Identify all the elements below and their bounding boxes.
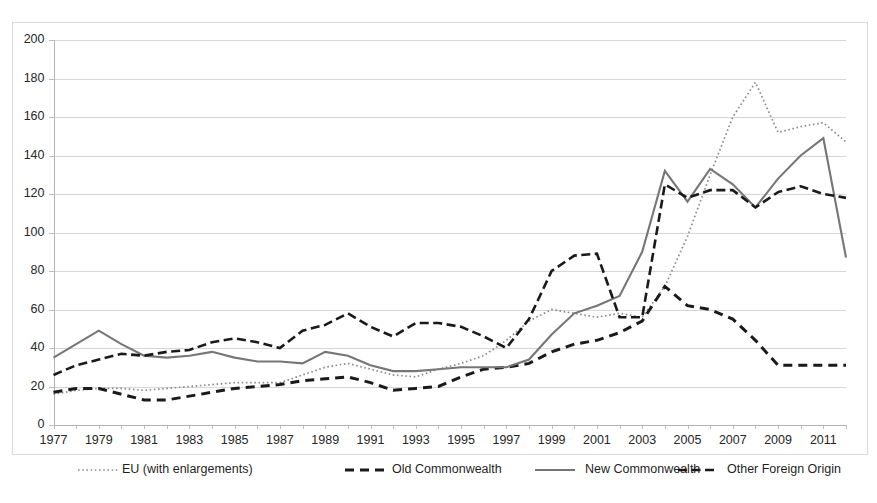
x-tick-label: 1977 xyxy=(40,433,68,447)
y-tick-label: 100 xyxy=(24,225,45,239)
series-line-eu-with-enlargements xyxy=(54,82,847,394)
plot-area: 020406080100120140160180200 197719791981… xyxy=(0,0,877,503)
series-line-new-commonwealth xyxy=(54,138,847,371)
y-axis-labels: 020406080100120140160180200 xyxy=(24,32,45,431)
x-tick-label: 1981 xyxy=(130,433,158,447)
x-axis-labels: 1977197919811983198519871989199119931995… xyxy=(40,433,837,447)
chart-page: 020406080100120140160180200 197719791981… xyxy=(0,0,877,503)
y-tick-label: 0 xyxy=(38,417,45,431)
y-tick-label: 160 xyxy=(24,109,45,123)
x-tick-label: 2005 xyxy=(674,433,702,447)
legend-label[interactable]: Old Commonwealth xyxy=(392,462,502,476)
x-tick-label: 1987 xyxy=(266,433,294,447)
series-line-old-commonwealth xyxy=(54,286,847,400)
x-tick-label: 1983 xyxy=(175,433,203,447)
x-tick-label: 2007 xyxy=(719,433,747,447)
x-tick-label: 1993 xyxy=(402,433,430,447)
chart-legend: EU (with enlargements)Old CommonwealthNe… xyxy=(78,462,841,476)
x-tick-label: 1991 xyxy=(357,433,385,447)
legend-label[interactable]: Other Foreign Origin xyxy=(727,462,841,476)
line-chart-svg: 020406080100120140160180200 197719791981… xyxy=(0,0,877,503)
y-tick-label: 80 xyxy=(31,263,45,277)
x-tick-label: 1997 xyxy=(492,433,520,447)
x-tick-label: 1985 xyxy=(221,433,249,447)
x-tick-label: 1995 xyxy=(447,433,475,447)
y-tick-label: 40 xyxy=(31,340,45,354)
y-tick-label: 60 xyxy=(31,302,45,316)
data-series-group xyxy=(54,82,847,400)
x-tick-label: 1979 xyxy=(85,433,113,447)
series-line-other-foreign-origin xyxy=(54,184,847,375)
x-tick-label: 1989 xyxy=(311,433,339,447)
x-tick-label: 1999 xyxy=(538,433,566,447)
y-tick-label: 180 xyxy=(24,71,45,85)
x-tick-label: 2003 xyxy=(628,433,656,447)
y-tick-label: 200 xyxy=(24,32,45,46)
x-tick-label: 2009 xyxy=(764,433,792,447)
legend-label[interactable]: EU (with enlargements) xyxy=(122,462,253,476)
x-tick-label: 2001 xyxy=(583,433,611,447)
y-tick-label: 20 xyxy=(31,379,45,393)
y-tick-label: 120 xyxy=(24,186,45,200)
x-tick-label: 2011 xyxy=(810,433,837,447)
y-tick-label: 140 xyxy=(24,148,45,162)
tickmarks-group xyxy=(49,41,847,430)
